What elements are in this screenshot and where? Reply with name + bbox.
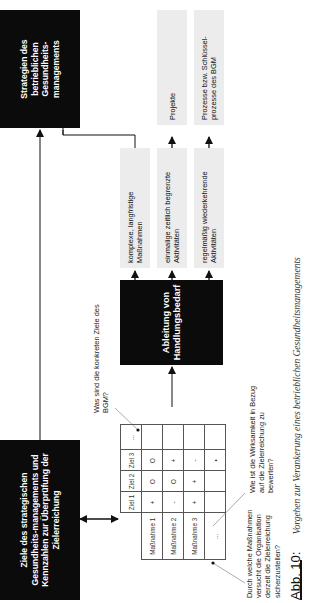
matrix-col-header: Ziel 1 [121,492,142,513]
derivation-box-label: Ableitung von Handlungsbedarf [161,284,182,361]
question-goals: Was sind die konkreten Ziele des BGM? [92,293,110,413]
table-row: Maßnahme 1 + O O [142,425,163,560]
strategies-box: Strategien des betrieblichen Gesundheits… [0,10,80,128]
question-measures: Durch welche Maßnahmen versucht die Orga… [245,498,282,598]
caption-number: Abb. 10: [288,552,303,600]
matrix-col-header: Ziel 2 [121,471,142,492]
figure-caption: Abb. 10: Vorgehen zur Verankerung eines … [288,257,303,600]
activity-one-time: einmalige zeitlich begrenzte Aktivitäten [157,148,187,268]
table-row: ... • [205,425,226,560]
matrix-header-row: Ziel 1 Ziel 2 Ziel 3 ... [121,425,142,560]
result-processes: Prozesse bzw. Schlüssel-prozesse des BGM [194,10,224,125]
diagram-canvas: Ziele des strategischen Gesundheits-mana… [0,0,317,603]
goals-box: Ziele des strategischen Gesundheits-mana… [0,440,80,600]
strategies-box-label: Strategien des betrieblichen Gesundheits… [19,14,61,124]
activity-recurring: regelmäßig wiederkehrende Aktivitäten [194,148,224,268]
caption-text: Vorgehen zur Verankerung eines betriebli… [292,257,302,534]
measures-goals-matrix: Ziel 1 Ziel 2 Ziel 3 ... Maßnahme 1 + O … [120,425,226,561]
goals-box-label: Ziele des strategischen Gesundheits-mana… [19,444,61,596]
table-row: Maßnahme 3 + + - [184,425,205,560]
activity-complex: komplexe, langfristige Maßnahmen [120,148,150,268]
question-effectiveness: Wie ist die Wirksamkeit in Bezug auf die… [248,383,276,493]
table-row: Maßnahme 2 - O + [163,425,184,560]
derivation-box: Ableitung von Handlungsbedarf [120,280,223,365]
matrix-col-header: ... [121,425,142,450]
result-projects: Projekte [157,10,187,125]
matrix-col-header: Ziel 3 [121,450,142,471]
